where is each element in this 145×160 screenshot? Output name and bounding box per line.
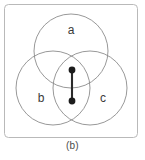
figure-caption: (b) — [0, 140, 145, 151]
set-label-c: c — [100, 91, 106, 105]
graph-node-top — [69, 67, 76, 74]
graph-node-bottom — [69, 98, 76, 105]
venn-diagram: a b c — [0, 0, 145, 160]
set-label-b: b — [38, 91, 45, 105]
set-label-a: a — [68, 23, 75, 37]
figure-container: a b c (b) — [0, 0, 145, 160]
